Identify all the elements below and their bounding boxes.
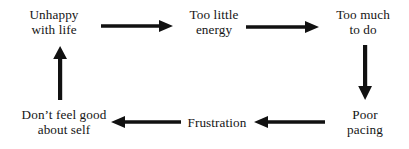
node-dont-feel-line-1: Don’t feel good <box>2 107 126 122</box>
arrow-right-unhappy-to-energy <box>101 19 173 33</box>
arrow-down-too-much-to-poor-pacing <box>357 45 373 100</box>
node-frustration-line-1: Frustration <box>178 115 256 130</box>
arrow-left-poor-pacing-to-frustration <box>254 115 325 129</box>
node-poor-pacing: Poor pacing <box>322 107 408 138</box>
node-dont-feel-good-about-self: Don’t feel good about self <box>2 107 126 138</box>
node-unhappy-with-life: Unhappy with life <box>4 7 104 38</box>
node-too-much-line-2: to do <box>320 22 406 37</box>
node-too-much-to-do: Too much to do <box>320 7 406 38</box>
node-unhappy-line-2: with life <box>4 22 104 37</box>
arrow-left-frustration-to-dont-feel-good <box>111 115 181 129</box>
arrow-up-dont-feel-good-to-unhappy <box>52 46 68 100</box>
node-dont-feel-line-2: about self <box>2 122 126 137</box>
node-unhappy-line-1: Unhappy <box>4 7 104 22</box>
node-poor-pacing-line-1: Poor <box>322 107 408 122</box>
arrow-right-energy-to-too-much <box>246 20 319 34</box>
cycle-diagram: Unhappy with life Too little energy Too … <box>0 0 409 149</box>
node-frustration: Frustration <box>178 115 256 130</box>
node-poor-pacing-line-2: pacing <box>322 122 408 137</box>
node-too-much-line-1: Too much <box>320 7 406 22</box>
